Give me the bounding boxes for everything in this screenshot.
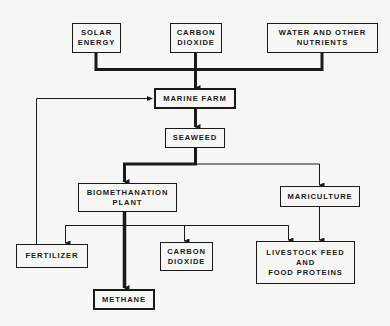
inputs-to-marine-farm-connector: [96, 53, 322, 88]
methane-node: METHANE: [93, 289, 155, 310]
carbon-dioxide-input-node: CARBON DIOXIDE: [170, 23, 222, 53]
fertilizer-feedback-connector: [37, 99, 153, 245]
biomethanation-plant-node: BIOMETHANATION PLANT: [78, 183, 177, 212]
carbon-dioxide-output-node: CARBON DIOXIDE: [160, 242, 213, 271]
solar-energy-node: SOLAR ENERGY: [72, 23, 121, 53]
mariculture-node: MARICULTURE: [280, 186, 360, 207]
seaweed-split-connector: [125, 147, 320, 185]
marine-biomass-flow-diagram: SOLAR ENERGY CARBON DIOXIDE WATER AND OT…: [0, 0, 390, 326]
water-nutrients-node: WATER AND OTHER NUTRIENTS: [267, 23, 378, 53]
livestock-feed-node: LIVESTOCK FEED AND FOOD PROTEINS: [256, 241, 355, 284]
seaweed-node: SEAWEED: [165, 128, 225, 148]
marine-farm-node: MARINE FARM: [154, 88, 236, 109]
fertilizer-node: FERTILIZER: [16, 244, 88, 268]
